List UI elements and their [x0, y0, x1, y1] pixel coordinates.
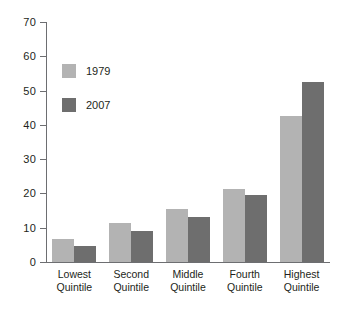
x-axis-category-labels: LowestQuintileSecondQuintileMiddleQuinti… — [46, 268, 330, 293]
bar-group — [160, 22, 217, 262]
bar-2007 — [131, 231, 153, 262]
x-axis-label: FourthQuintile — [216, 268, 273, 293]
y-axis-tick-label: 30 — [0, 154, 36, 165]
bar-1979 — [280, 116, 302, 262]
y-axis-tick-label: 60 — [0, 51, 36, 62]
x-axis-label-line: Quintile — [160, 281, 217, 294]
bar-group — [273, 22, 330, 262]
x-axis-label-line: Highest — [273, 268, 330, 281]
x-axis-label-line: Middle — [160, 268, 217, 281]
x-axis-label: SecondQuintile — [103, 268, 160, 293]
bar-1979 — [223, 189, 245, 262]
bar-groups — [46, 22, 330, 262]
x-axis-label-line: Fourth — [216, 268, 273, 281]
bar-2007 — [302, 82, 324, 262]
bar-2007 — [188, 217, 210, 262]
x-axis-label-line: Second — [103, 268, 160, 281]
x-axis-label: LowestQuintile — [46, 268, 103, 293]
bar-group — [103, 22, 160, 262]
bar-group — [216, 22, 273, 262]
y-axis-tick-label: 70 — [0, 17, 36, 28]
legend-swatch-1979 — [62, 64, 76, 78]
y-axis-tick-label: 40 — [0, 120, 36, 131]
x-axis-label-line: Lowest — [46, 268, 103, 281]
x-axis-label: HighestQuintile — [273, 268, 330, 293]
y-axis-tick — [40, 262, 46, 263]
x-axis-label-line: Quintile — [46, 281, 103, 294]
bar-1979 — [52, 239, 74, 262]
bar-1979 — [109, 223, 131, 262]
legend-label-1979: 1979 — [86, 66, 110, 77]
bar-2007 — [245, 195, 267, 262]
y-axis-tick-label: 50 — [0, 86, 36, 97]
y-axis-tick-label: 20 — [0, 188, 36, 199]
x-axis-label: MiddleQuintile — [160, 268, 217, 293]
bar-1979 — [166, 209, 188, 262]
chart-legend: 1979 2007 — [62, 64, 110, 132]
bar-group — [46, 22, 103, 262]
bar-chart: 706050403020100 LowestQuintileSecondQuin… — [0, 0, 338, 312]
y-axis-tick-label: 0 — [0, 257, 36, 268]
x-axis-line — [46, 262, 330, 263]
caption-partial — [18, 305, 318, 312]
bar-2007 — [74, 246, 96, 262]
x-axis-label-line: Quintile — [103, 281, 160, 294]
y-axis-tick-label: 10 — [0, 223, 36, 234]
legend-item-1979: 1979 — [62, 64, 110, 78]
legend-item-2007: 2007 — [62, 98, 110, 112]
legend-label-2007: 2007 — [86, 100, 110, 111]
x-axis-label-line: Quintile — [216, 281, 273, 294]
x-axis-label-line: Quintile — [273, 281, 330, 294]
legend-swatch-2007 — [62, 98, 76, 112]
